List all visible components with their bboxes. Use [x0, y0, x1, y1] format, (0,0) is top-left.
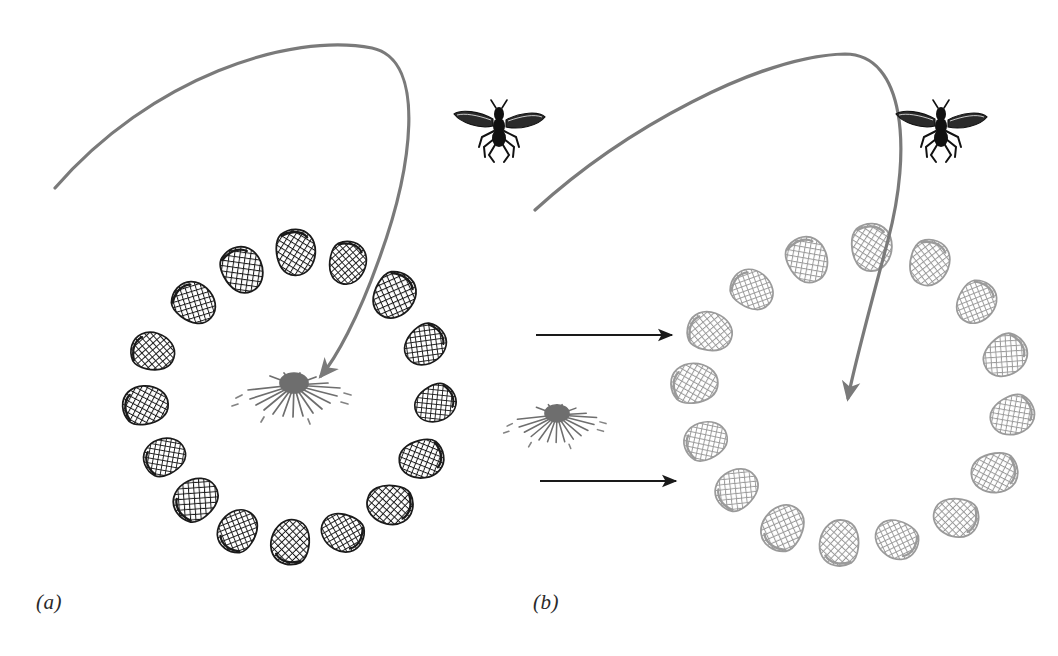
pine-cone: [165, 274, 224, 331]
pine-cone: [818, 518, 861, 567]
panel-label-b: (b): [533, 590, 559, 615]
pine-cone: [214, 239, 272, 299]
panel-label-a: (a): [36, 590, 62, 615]
pine-cone: [268, 517, 312, 567]
figure-root: (a) (b): [0, 0, 1058, 656]
pine-cone: [165, 469, 226, 529]
figure-canvas: [0, 0, 1058, 656]
pine-cone: [408, 378, 462, 430]
pine-cone: [984, 388, 1041, 442]
panel-b: [504, 54, 1041, 568]
pine-cone: [137, 431, 191, 483]
pine-cone: [668, 360, 720, 406]
panel-a: [55, 45, 545, 567]
nest-flower-displaced: [504, 405, 606, 449]
nest-flower: [232, 373, 351, 424]
pine-cone: [326, 239, 369, 288]
pine-cone: [905, 236, 954, 290]
flight-path-curve: [55, 45, 409, 376]
pine-cone: [931, 496, 981, 540]
pine-cone: [128, 329, 178, 373]
pine-cone: [315, 508, 369, 558]
pine-cone: [724, 262, 781, 317]
panel-b-cone-ring: [668, 222, 1041, 568]
pine-cone: [976, 326, 1036, 385]
wasp: [896, 100, 987, 162]
wasp: [454, 100, 545, 162]
pine-cone: [950, 274, 1004, 330]
pine-cone: [274, 227, 317, 277]
panel-a-cone-ring: [120, 227, 463, 567]
pine-cone: [869, 513, 925, 565]
pine-cone: [365, 483, 414, 526]
pine-cone: [678, 414, 734, 466]
pine-cone: [754, 497, 812, 558]
pine-cone: [968, 450, 1021, 497]
pine-cone: [397, 316, 454, 373]
pine-cone: [210, 502, 264, 558]
pine-cone: [395, 435, 448, 484]
pine-cone: [684, 308, 736, 355]
pine-cone: [707, 460, 765, 518]
pine-cone: [779, 230, 835, 289]
pine-cone: [120, 382, 172, 428]
